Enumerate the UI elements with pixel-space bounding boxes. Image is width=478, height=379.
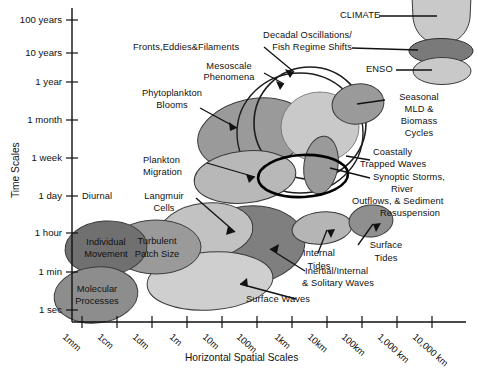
- y-tick-label-1-min: 1 min: [2, 266, 62, 277]
- stommel-diagram-figure: 100 years 10 years 1 year 1 month 1 week…: [0, 0, 478, 379]
- label-langmuir-line2: Cells: [131, 203, 197, 215]
- y-tick-label-1-month: 1 month: [2, 114, 62, 125]
- label-fronts-eddies-filaments: Fronts,Eddies&Filaments: [133, 42, 239, 54]
- y-tick-label-1-sec: 1 sec: [2, 304, 62, 315]
- bubble-enso[interactable]: [413, 58, 471, 85]
- label-internal-tides-line1: Internal: [290, 248, 348, 260]
- label-mesoscale-line1: Mesoscale: [193, 61, 265, 73]
- label-synoptic-line2: River: [391, 184, 413, 196]
- label-seasonal-line1: Seasonal: [386, 92, 452, 104]
- bubble-climate[interactable]: [411, 0, 472, 44]
- label-surface-tides-line2: Tides: [358, 253, 414, 265]
- label-plankton-line2: Migration: [143, 167, 182, 179]
- y-tick-label-100-years: 100 years: [2, 14, 62, 25]
- label-turbulent-line2: Patch Size: [118, 249, 196, 260]
- y-axis-title: Time Scales: [10, 142, 21, 198]
- y-tick-label-1-hour: 1 hour: [2, 227, 62, 238]
- label-synoptic-line1: Synoptic Storms,: [373, 172, 445, 184]
- label-plankton-line1: Plankton: [143, 155, 180, 167]
- label-turbulent-line1: Turbulent: [118, 236, 196, 247]
- label-climate: CLIMATE: [340, 10, 380, 22]
- label-diurnal: Diurnal: [82, 191, 112, 203]
- label-surface-tides-line1: Surface: [358, 240, 414, 252]
- label-coastally-line1: Coastally: [373, 147, 412, 159]
- label-mesoscale-line2: Phenomena: [193, 72, 265, 84]
- leader-decadal: [352, 48, 418, 50]
- label-internal-tides-line2: Tides: [290, 261, 348, 273]
- label-phytoplankton-line1: Phytoplankton: [131, 88, 213, 100]
- label-langmuir-line1: Langmuir: [131, 191, 197, 203]
- y-tick-label-1-year: 1 year: [2, 76, 62, 87]
- label-seasonal-line4: Cycles: [386, 128, 452, 140]
- label-seasonal-line2: MLD &: [386, 104, 452, 116]
- x-axis-title: Horizontal Spatial Scales: [185, 352, 298, 363]
- label-inertial-line2: & Solitary Waves: [302, 278, 374, 290]
- label-seasonal-line3: Biomass: [386, 116, 452, 128]
- y-tick-label-10-years: 10 years: [2, 47, 62, 58]
- label-molecular-line1: Molecular: [58, 284, 136, 295]
- label-coastally-line2: Trapped Waves: [360, 159, 426, 171]
- label-synoptic-line4: Resuspension: [380, 208, 440, 220]
- label-decadal-line1: Decadal Oscillations/: [196, 30, 352, 42]
- label-molecular-line2: Processes: [58, 296, 136, 307]
- label-enso: ENSO: [366, 64, 393, 76]
- label-surface-waves: Surface Waves: [246, 294, 310, 306]
- label-phytoplankton-line2: Blooms: [131, 100, 213, 112]
- label-synoptic-line3: Outflows, & Sediment: [352, 196, 443, 208]
